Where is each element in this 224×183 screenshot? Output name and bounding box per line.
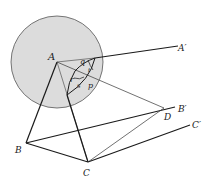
label-A: A bbox=[47, 51, 55, 62]
label-D: D bbox=[163, 112, 171, 122]
ray-A-prime bbox=[95, 46, 178, 58]
label-B: B bbox=[14, 145, 22, 155]
label-B-prime: B′ bbox=[177, 104, 187, 114]
ray-C-C-prime bbox=[88, 125, 190, 162]
edge-C-D bbox=[88, 108, 164, 162]
edge-B-C bbox=[26, 143, 88, 162]
angle-label-q: q bbox=[80, 57, 85, 66]
angle-label-p: p bbox=[88, 81, 93, 90]
label-C: C bbox=[83, 168, 90, 178]
geometry-diagram: A A′ B B′ C C′ D q t r s p bbox=[0, 0, 224, 183]
label-A-prime: A′ bbox=[177, 43, 187, 53]
label-C-prime: C′ bbox=[192, 120, 201, 130]
angle-label-s: s bbox=[77, 82, 81, 90]
ray-B-B-prime bbox=[26, 107, 175, 143]
